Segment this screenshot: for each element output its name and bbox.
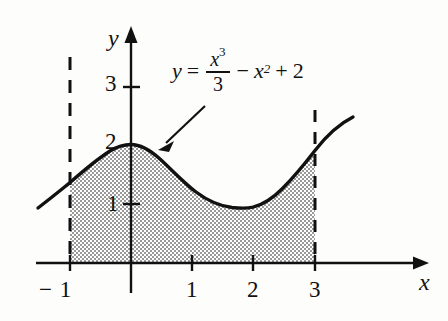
equation-plus: + bbox=[275, 60, 287, 82]
x-axis-arrowhead bbox=[413, 257, 429, 270]
x-tick-label-3: 3 bbox=[309, 278, 321, 301]
math-figure: y = x3 3 − x2 + 2 y x 1 2 3 − 1 1 2 3 bbox=[0, 0, 448, 321]
equation-label: y = x3 3 − x2 + 2 bbox=[172, 48, 304, 94]
equation-fraction: x3 3 bbox=[206, 49, 229, 95]
annotation-arrow-line bbox=[166, 106, 205, 143]
equation-equals: = bbox=[187, 60, 199, 82]
equation-term2-base: x bbox=[254, 60, 264, 82]
x-tick-label-2: 2 bbox=[247, 278, 259, 301]
fraction-numerator: x3 bbox=[206, 49, 229, 70]
y-axis-label: y bbox=[108, 26, 119, 50]
x-tick-label-1: 1 bbox=[186, 278, 198, 301]
y-tick-label-2: 2 bbox=[105, 130, 117, 153]
y-axis-arrowhead bbox=[125, 26, 138, 43]
y-tick-label-3: 3 bbox=[105, 72, 117, 95]
fraction-denominator: 3 bbox=[213, 74, 223, 95]
x-tick-label-neg1: − 1 bbox=[39, 278, 72, 301]
y-tick-label-1: 1 bbox=[107, 192, 119, 215]
equation-minus: − bbox=[237, 60, 249, 82]
x-axis-label: x bbox=[419, 270, 430, 294]
equation-constant: 2 bbox=[293, 60, 304, 82]
equation-lhs: y bbox=[172, 60, 182, 82]
